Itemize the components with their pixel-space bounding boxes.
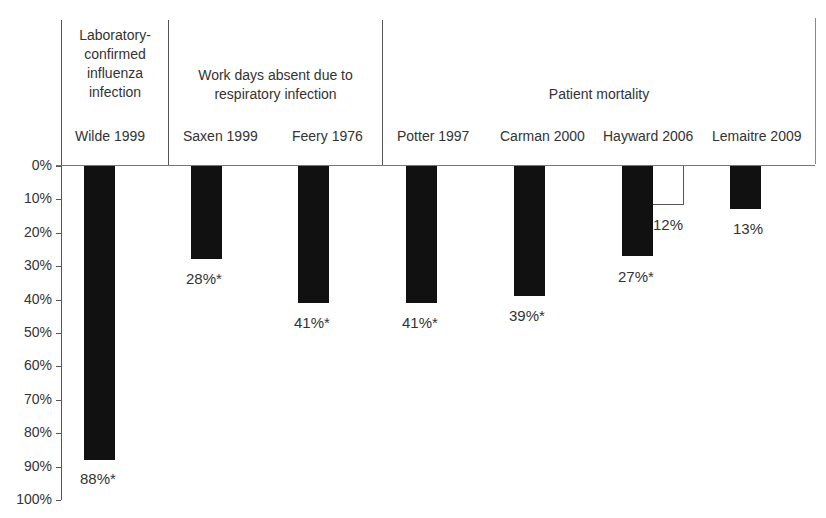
bar-hayward-2006-secondary (653, 166, 684, 205)
reduction-bar-chart: Laboratory- confirmed influenza infectio… (0, 0, 826, 518)
y-tick (56, 467, 61, 468)
group-title-line: infection (62, 83, 168, 102)
category-label-carman: Carman 2000 (500, 128, 585, 144)
group-title-lab-confirmed: Laboratory- confirmed influenza infectio… (62, 26, 168, 102)
data-label-wilde: 88%* (80, 470, 116, 487)
category-label-hayward: Hayward 2006 (603, 128, 693, 144)
group-title-line: Work days absent due to (169, 66, 382, 85)
category-label-lemaitre: Lemaitre 2009 (712, 128, 802, 144)
y-tick (56, 233, 61, 234)
y-tick-label: 20% (2, 224, 52, 240)
y-tick (56, 433, 61, 434)
y-tick-label: 0% (2, 157, 52, 173)
data-label-saxen: 28%* (186, 270, 222, 287)
bar-feery-1976 (298, 166, 329, 303)
bar-wilde-1999 (84, 166, 115, 460)
y-tick-label: 10% (2, 190, 52, 206)
data-label-hayward: 27%* (618, 268, 654, 285)
group-title-work-days: Work days absent due to respiratory infe… (169, 66, 382, 104)
y-tick-label: 60% (2, 357, 52, 373)
bar-saxen-1999 (191, 166, 222, 259)
y-tick (56, 333, 61, 334)
y-tick-label: 100% (2, 491, 52, 507)
y-tick (56, 500, 61, 501)
category-label-saxen: Saxen 1999 (183, 128, 258, 144)
group-title-line: Laboratory- (62, 26, 168, 45)
y-tick (56, 199, 61, 200)
data-label-hayward-secondary: 12% (653, 216, 683, 233)
bar-carman-2000 (514, 166, 545, 296)
y-tick-label: 90% (2, 458, 52, 474)
y-tick (56, 300, 61, 301)
y-tick-label: 50% (2, 324, 52, 340)
category-label-wilde: Wilde 1999 (75, 128, 145, 144)
data-label-feery: 41%* (294, 314, 330, 331)
bar-potter-1997 (406, 166, 437, 303)
group-title-mortality: Patient mortality (383, 85, 815, 104)
group-title-line: respiratory infection (169, 85, 382, 104)
category-label-feery: Feery 1976 (292, 128, 363, 144)
bar-hayward-2006 (622, 166, 653, 256)
group-divider-right (815, 18, 816, 164)
group-title-line: confirmed (62, 45, 168, 64)
group-title-line: influenza (62, 64, 168, 83)
category-label-potter: Potter 1997 (397, 128, 469, 144)
y-tick (56, 266, 61, 267)
y-tick-label: 80% (2, 424, 52, 440)
y-tick-label: 70% (2, 391, 52, 407)
group-title-line: Patient mortality (383, 85, 815, 104)
data-label-carman: 39%* (509, 307, 545, 324)
y-tick-label: 30% (2, 257, 52, 273)
data-label-potter: 41%* (402, 314, 438, 331)
data-label-lemaitre: 13% (733, 220, 763, 237)
y-tick (56, 366, 61, 367)
bar-lemaitre-2009 (730, 166, 761, 209)
y-tick (56, 400, 61, 401)
y-tick (56, 166, 61, 167)
y-tick-label: 40% (2, 291, 52, 307)
